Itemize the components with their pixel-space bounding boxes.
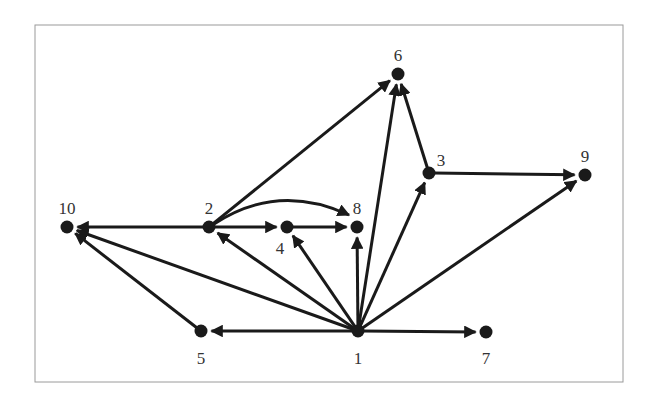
node-6 [392,68,405,81]
node-label-1: 1 [354,349,363,368]
edge-3-to-9 [433,173,574,175]
node-label-6: 6 [394,46,403,65]
edge-1-to-8 [357,237,358,326]
directed-graph-diagram: 12345678910 [0,0,645,403]
node-5 [195,325,208,338]
node-4 [281,221,294,234]
node-2 [203,221,216,234]
node-1 [352,325,365,338]
node-label-2: 2 [205,199,214,218]
node-label-5: 5 [197,349,206,368]
node-label-3: 3 [437,151,446,170]
node-3 [423,167,436,180]
node-10 [61,221,74,234]
node-7 [480,326,493,339]
node-label-10: 10 [59,199,76,218]
node-8 [351,221,364,234]
edge-1-to-7 [362,331,475,332]
node-label-8: 8 [353,199,362,218]
diagram-frame [35,25,623,382]
node-label-7: 7 [482,349,491,368]
node-label-4: 4 [276,239,285,258]
node-label-9: 9 [581,147,590,166]
node-9 [579,169,592,182]
